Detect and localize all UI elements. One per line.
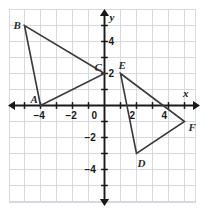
vertex-label-c: C (95, 62, 102, 73)
x-tick-label: −2 (66, 111, 77, 121)
origin-label: 0 (92, 111, 98, 121)
x-axis-label: x (183, 88, 189, 99)
plot-canvas (0, 0, 205, 212)
x-tick-label: 2 (130, 111, 136, 121)
y-axis-label: y (110, 12, 115, 23)
x-tick-label: −4 (34, 111, 45, 121)
x-axis-arrow-right (193, 101, 200, 110)
x-tick-label: 4 (162, 111, 168, 121)
y-tick-label: 4 (109, 37, 115, 47)
y-tick-label: 2 (109, 69, 115, 79)
vertex-label-b: B (14, 20, 21, 31)
y-tick-label: −4 (85, 165, 96, 175)
vertex-label-e: E (119, 60, 126, 71)
vertex-label-f: F (189, 122, 196, 133)
vertex-label-d: D (138, 158, 146, 169)
vertex-label-a: A (31, 94, 38, 105)
y-tick-label: −2 (85, 133, 96, 143)
coordinate-plane-figure: −4−22442−2−4ABCDEF x y 0 (0, 0, 205, 212)
